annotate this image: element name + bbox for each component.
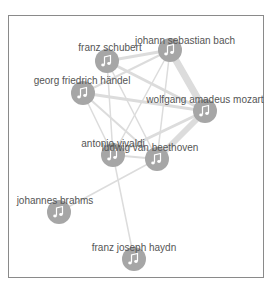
node-label-bach: johann sebastian bach bbox=[134, 35, 235, 46]
node-label-schubert: franz schubert bbox=[78, 42, 142, 53]
network-graph: franz schubertjohann sebastian bachgeorg… bbox=[0, 0, 272, 294]
node-label-beethoven: ludwig van beethoven bbox=[102, 142, 199, 153]
node-label-mozart: wolfgang amadeus mozart bbox=[145, 94, 264, 105]
node-label-brahms: johannes brahms bbox=[16, 195, 94, 206]
node-label-handel: georg friedrich händel bbox=[34, 75, 131, 86]
node-label-haydn: franz joseph haydn bbox=[92, 242, 177, 253]
